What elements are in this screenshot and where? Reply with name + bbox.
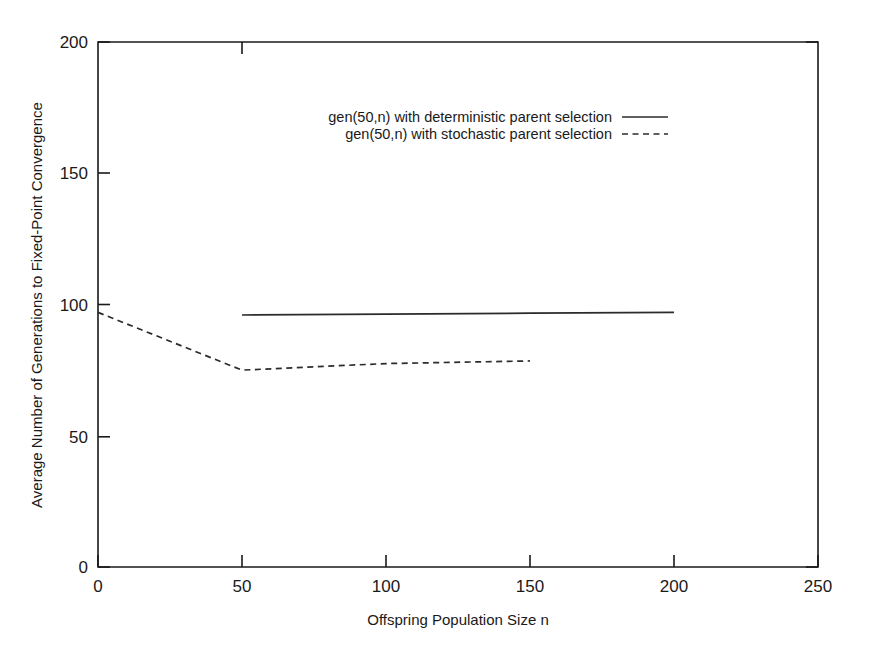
y-tick-label-100: 100 xyxy=(60,296,88,315)
chart-figure: 0 50 100 150 200 0 50 100 150 200 250 Of… xyxy=(0,0,869,649)
y-tick-label-50: 50 xyxy=(69,428,88,447)
x-tick-label-250: 250 xyxy=(804,577,832,596)
line-chart: 0 50 100 150 200 0 50 100 150 200 250 Of… xyxy=(0,0,869,649)
y-tick-label-200: 200 xyxy=(60,33,88,52)
y-axis-title: Average Number of Generations to Fixed-P… xyxy=(28,102,45,508)
x-tick-label-50: 50 xyxy=(233,577,252,596)
legend-label-stochastic: gen(50,n) with stochastic parent selecti… xyxy=(345,126,612,142)
x-tick-label-0: 0 xyxy=(93,577,102,596)
legend-label-deterministic: gen(50,n) with deterministic parent sele… xyxy=(328,109,612,125)
x-axis-title: Offspring Population Size n xyxy=(367,611,549,628)
x-tick-label-150: 150 xyxy=(516,577,544,596)
y-tick-label-150: 150 xyxy=(60,164,88,183)
y-tick-label-0: 0 xyxy=(79,558,88,577)
x-tick-label-100: 100 xyxy=(372,577,400,596)
x-tick-label-200: 200 xyxy=(660,577,688,596)
